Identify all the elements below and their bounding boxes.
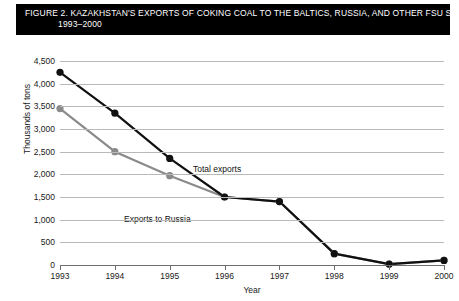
y-axis-tick-labels: 05001,0001,5002,0002,5003,0003,5004,0004… <box>10 61 55 265</box>
x-axis-tick-mark <box>170 265 171 270</box>
gridline <box>60 220 444 221</box>
data-point-marker <box>56 69 63 76</box>
x-axis-title: Year <box>60 285 444 295</box>
y-axis-tick-label: 2,000 <box>15 169 55 179</box>
figure-container: FIGURE 2. KAZAKHSTAN'S EXPORTS OF COKING… <box>0 0 459 301</box>
x-axis-tick-mark <box>115 265 116 270</box>
series-line <box>60 72 444 264</box>
data-point-marker <box>166 172 173 179</box>
x-axis-tick-label: 2000 <box>421 271 459 281</box>
series-line <box>60 109 444 264</box>
x-axis-tick-labels: 19931994199519961997199819992000 <box>60 265 444 287</box>
gridline <box>60 106 444 107</box>
x-axis-tick-label: 1994 <box>92 271 138 281</box>
x-axis-tick-mark <box>389 265 390 270</box>
figure-title-line-2: 1993–2000 <box>16 19 450 30</box>
x-axis-tick-mark <box>60 265 61 270</box>
gridline <box>60 61 444 62</box>
x-axis-tick-mark <box>444 265 445 270</box>
x-axis-tick-mark <box>279 265 280 270</box>
y-axis-tick-label: 3,000 <box>15 124 55 134</box>
y-axis-tick-label: 500 <box>15 237 55 247</box>
gridline <box>60 197 444 198</box>
y-axis-tick-label: 0 <box>15 260 55 270</box>
y-axis-tick-label: 4,000 <box>15 79 55 89</box>
data-point-marker <box>111 110 118 117</box>
figure-title-line-1: FIGURE 2. KAZAKHSTAN'S EXPORTS OF COKING… <box>16 8 450 19</box>
y-axis-tick-label: 2,500 <box>15 147 55 157</box>
gridline <box>60 152 444 153</box>
data-point-marker <box>166 155 173 162</box>
plot-area: Total exports Exports to Russia <box>60 61 444 265</box>
y-axis-tick-label: 3,500 <box>15 101 55 111</box>
gridline <box>60 129 444 130</box>
data-point-marker <box>331 250 338 257</box>
x-axis-tick-mark <box>225 265 226 270</box>
x-axis-tick-label: 1997 <box>256 271 302 281</box>
series-layer <box>60 61 444 265</box>
x-axis-tick-label: 1998 <box>311 271 357 281</box>
y-axis-tick-label: 1,500 <box>15 192 55 202</box>
data-point-marker <box>440 257 447 264</box>
x-axis-tick-label: 1999 <box>366 271 412 281</box>
x-axis-tick-mark <box>334 265 335 270</box>
gridline <box>60 84 444 85</box>
y-axis-tick-label: 4,500 <box>15 56 55 66</box>
gridline <box>60 174 444 175</box>
gridline <box>60 242 444 243</box>
x-axis-tick-label: 1993 <box>37 271 83 281</box>
data-point-marker <box>276 198 283 205</box>
figure-title-bar: FIGURE 2. KAZAKHSTAN'S EXPORTS OF COKING… <box>16 4 450 35</box>
x-axis-tick-label: 1995 <box>147 271 193 281</box>
y-axis-tick-label: 1,000 <box>15 215 55 225</box>
x-axis-tick-label: 1996 <box>202 271 248 281</box>
series-label-total-exports: Total exports <box>193 164 241 174</box>
